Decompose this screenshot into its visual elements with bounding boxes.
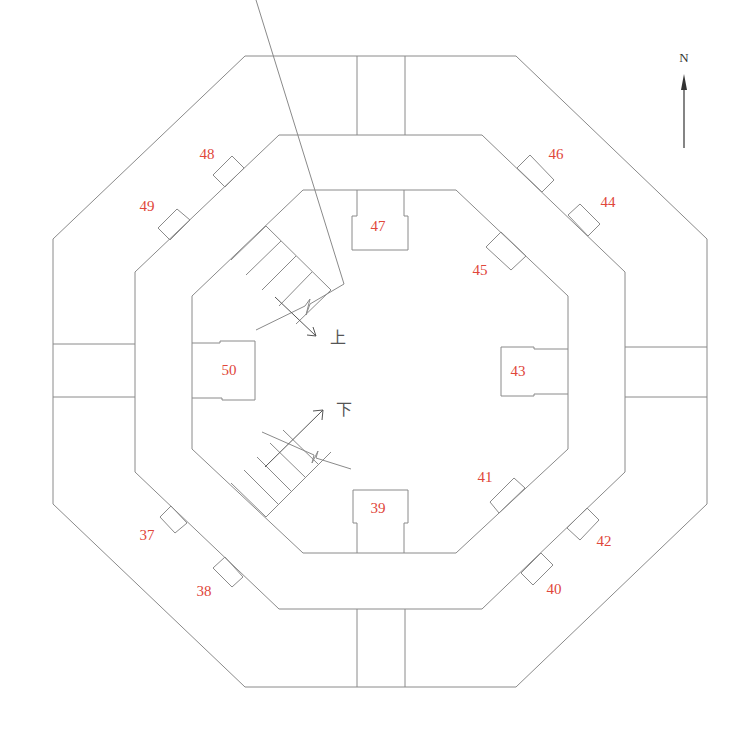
room-43: 43 (501, 347, 568, 396)
niche-44: 44 (568, 194, 616, 236)
niche-label-49: 49 (140, 198, 155, 214)
north-label: N (679, 50, 689, 65)
north-compass: N (679, 50, 689, 148)
niche-41: 41 (478, 469, 526, 513)
niche-label-37: 37 (140, 527, 156, 543)
arrow-up-icon (275, 297, 316, 336)
passage-walls (53, 56, 707, 687)
niche-49: 49 (140, 198, 191, 240)
room-50: 50 (192, 341, 255, 400)
niche-37: 37 (140, 506, 188, 543)
room-label-39: 39 (371, 500, 386, 516)
room-label-50: 50 (222, 362, 237, 378)
room-label-47: 47 (371, 218, 387, 234)
room-47: 47 (352, 190, 408, 250)
niche-46: 46 (517, 146, 564, 192)
niche-48: 48 (200, 146, 245, 187)
niche-label-38: 38 (197, 583, 212, 599)
niche-42: 42 (567, 508, 612, 549)
niche-label-41: 41 (478, 469, 493, 485)
stairs-up-label: 上 (330, 328, 346, 347)
stairs-down: 下 (231, 400, 352, 518)
outer-wall (53, 56, 707, 687)
room-39: 39 (353, 490, 408, 553)
room-label-43: 43 (511, 363, 526, 379)
niche-label-42: 42 (597, 533, 612, 549)
stairs-up: 上 (231, 0, 346, 347)
floor-plan: 47 50 43 39 48 49 46 44 45 41 42 (0, 0, 752, 741)
niche-label-40: 40 (547, 581, 562, 597)
niche-label-44: 44 (601, 194, 617, 210)
niche-label-46: 46 (549, 146, 565, 162)
niche-label-48: 48 (200, 146, 215, 162)
niche-38: 38 (197, 557, 244, 599)
niche-label-45: 45 (473, 262, 488, 278)
stairs-down-label: 下 (336, 400, 352, 419)
niche-45: 45 (473, 232, 527, 278)
middle-wall (135, 135, 625, 609)
niche-40: 40 (521, 553, 562, 597)
